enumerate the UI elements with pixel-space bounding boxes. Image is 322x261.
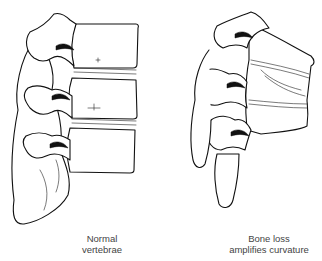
normal-vertebrae-illustration <box>0 0 161 261</box>
osteoporotic-spine-drawing <box>161 0 322 261</box>
normal-spine-drawing <box>0 0 161 261</box>
caption-line-1: Bone loss <box>213 233 322 244</box>
caption-line-2: amplifies curvature <box>213 244 322 255</box>
bone-loss-illustration <box>161 0 322 261</box>
caption-line-1: Normal <box>62 233 142 244</box>
bone-loss-caption: Bone loss amplifies curvature <box>213 233 322 255</box>
caption-line-2: vertebrae <box>62 244 142 255</box>
normal-vertebrae-caption: Normal vertebrae <box>62 233 142 255</box>
